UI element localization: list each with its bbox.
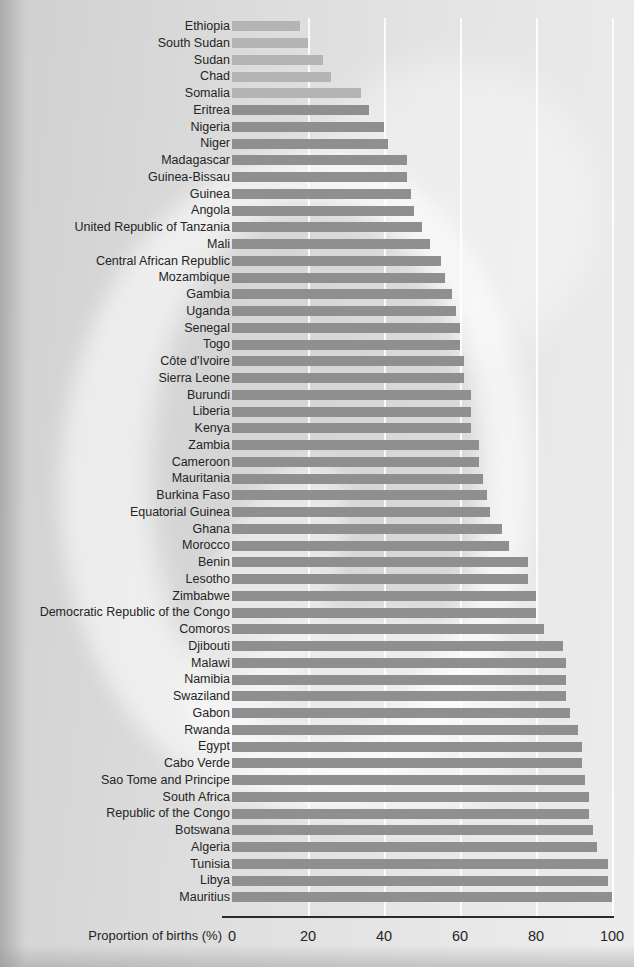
category-label-sao-tome-and-principe: Sao Tome and Principe: [0, 772, 230, 789]
bar[interactable]: [232, 524, 502, 534]
bar[interactable]: [232, 792, 589, 802]
bar-track: [232, 872, 612, 889]
category-label-democratic-republic-of-the-congo: Democratic Republic of the Congo: [0, 604, 230, 621]
category-label-togo: Togo: [0, 336, 230, 353]
category-label-malawi: Malawi: [0, 655, 230, 672]
bar[interactable]: [232, 72, 331, 82]
bar-track: [232, 504, 612, 521]
bar[interactable]: [232, 273, 445, 283]
bar[interactable]: [232, 323, 460, 333]
bar-row: Kenya: [0, 420, 634, 437]
bar-row: Liberia: [0, 403, 634, 420]
bar-rows: EthiopiaSouth SudanSudanChadSomaliaEritr…: [0, 18, 634, 916]
bar-track: [232, 68, 612, 85]
bar[interactable]: [232, 775, 585, 785]
bar-track: [232, 822, 612, 839]
bar[interactable]: [232, 608, 536, 618]
bar[interactable]: [232, 155, 407, 165]
bar-row: Zambia: [0, 437, 634, 454]
bar[interactable]: [232, 423, 471, 433]
bar[interactable]: [232, 340, 460, 350]
bar[interactable]: [232, 38, 308, 48]
category-label-sudan: Sudan: [0, 52, 230, 69]
bar[interactable]: [232, 708, 570, 718]
bar[interactable]: [232, 457, 479, 467]
bar-track: [232, 755, 612, 772]
bar[interactable]: [232, 239, 430, 249]
bar[interactable]: [232, 222, 422, 232]
bar[interactable]: [232, 825, 593, 835]
bar[interactable]: [232, 474, 483, 484]
bar-row: Central African Republic: [0, 253, 634, 270]
bar[interactable]: [232, 21, 300, 31]
bar-track: [232, 253, 612, 270]
bar-row: Algeria: [0, 839, 634, 856]
bar-track: [232, 420, 612, 437]
bar[interactable]: [232, 658, 566, 668]
bar[interactable]: [232, 373, 464, 383]
bar-track: [232, 169, 612, 186]
bar-row: Angola: [0, 202, 634, 219]
bar[interactable]: [232, 809, 589, 819]
category-label-rwanda: Rwanda: [0, 722, 230, 739]
category-label-swaziland: Swaziland: [0, 688, 230, 705]
bar[interactable]: [232, 574, 528, 584]
bar[interactable]: [232, 742, 582, 752]
category-label-namibia: Namibia: [0, 671, 230, 688]
bar[interactable]: [232, 591, 536, 601]
bar[interactable]: [232, 122, 384, 132]
bar-track: [232, 722, 612, 739]
bar[interactable]: [232, 289, 452, 299]
bar[interactable]: [232, 88, 361, 98]
bar[interactable]: [232, 440, 479, 450]
bar[interactable]: [232, 356, 464, 366]
bar-row: Ghana: [0, 521, 634, 538]
bar[interactable]: [232, 842, 597, 852]
bar[interactable]: [232, 624, 544, 634]
category-label-guinea-bissau: Guinea-Bissau: [0, 169, 230, 186]
category-label-republic-of-the-congo: Republic of the Congo: [0, 805, 230, 822]
bar[interactable]: [232, 557, 528, 567]
bar[interactable]: [232, 189, 411, 199]
bar[interactable]: [232, 490, 487, 500]
bar-row: Swaziland: [0, 688, 634, 705]
bar[interactable]: [232, 675, 566, 685]
category-label-tunisia: Tunisia: [0, 856, 230, 873]
category-label-algeria: Algeria: [0, 839, 230, 856]
x-axis-title: Proportion of births (%): [76, 925, 222, 947]
bar[interactable]: [232, 507, 490, 517]
bar[interactable]: [232, 859, 608, 869]
bar-row: Mali: [0, 236, 634, 253]
category-label-mauritius: Mauritius: [0, 889, 230, 906]
bar[interactable]: [232, 139, 388, 149]
category-label-burundi: Burundi: [0, 387, 230, 404]
category-label-botswana: Botswana: [0, 822, 230, 839]
category-label-comoros: Comoros: [0, 621, 230, 638]
bar[interactable]: [232, 172, 407, 182]
bar[interactable]: [232, 641, 563, 651]
bar-row: Burkina Faso: [0, 487, 634, 504]
bar[interactable]: [232, 390, 471, 400]
bar[interactable]: [232, 407, 471, 417]
bar-row: Rwanda: [0, 722, 634, 739]
bar[interactable]: [232, 725, 578, 735]
bar-track: [232, 370, 612, 387]
bar[interactable]: [232, 105, 369, 115]
category-label-eritrea: Eritrea: [0, 102, 230, 119]
bar[interactable]: [232, 306, 456, 316]
bar[interactable]: [232, 691, 566, 701]
bar[interactable]: [232, 758, 582, 768]
x-axis-line: [222, 916, 614, 918]
bar[interactable]: [232, 892, 612, 902]
category-label-zimbabwe: Zimbabwe: [0, 588, 230, 605]
bar[interactable]: [232, 876, 608, 886]
bar[interactable]: [232, 256, 441, 266]
bar[interactable]: [232, 541, 509, 551]
category-label-somalia: Somalia: [0, 85, 230, 102]
bar-track: [232, 889, 612, 906]
bar-track: [232, 353, 612, 370]
bar[interactable]: [232, 206, 414, 216]
bar[interactable]: [232, 55, 323, 65]
bar-track: [232, 454, 612, 471]
bar-track: [232, 537, 612, 554]
